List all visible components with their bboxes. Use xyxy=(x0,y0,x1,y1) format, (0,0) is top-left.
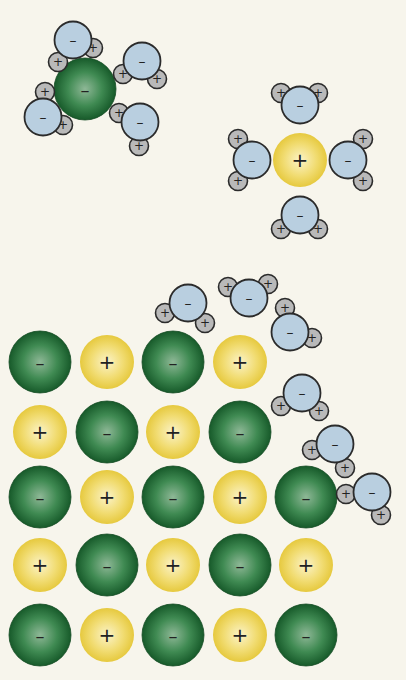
negative-sign-icon: – xyxy=(332,436,339,452)
negative-sign-icon: – xyxy=(40,109,47,125)
negative-sign-icon: – xyxy=(103,555,112,576)
negative-sign-icon: – xyxy=(169,625,178,646)
negative-sign-icon: – xyxy=(302,487,311,508)
negative-sign-icon: – xyxy=(169,487,178,508)
negative-sign-icon: – xyxy=(287,324,294,340)
water-molecule: ++– xyxy=(272,299,322,351)
sodium-ion: + xyxy=(80,335,134,389)
negative-sign-icon: – xyxy=(297,207,304,223)
sodium-ion: + xyxy=(146,538,200,592)
positive-sign-icon: + xyxy=(160,306,170,320)
positive-sign-icon: + xyxy=(165,420,182,444)
negative-sign-icon: – xyxy=(81,79,90,100)
water-molecule: ++– xyxy=(229,130,271,191)
sodium-ion: + xyxy=(213,470,267,524)
chloride-ion: – xyxy=(9,466,71,528)
negative-sign-icon: – xyxy=(249,152,256,168)
positive-sign-icon: + xyxy=(232,623,249,647)
negative-sign-icon: – xyxy=(139,53,146,69)
chloride-ion: – xyxy=(142,604,204,666)
water-molecule: ++– xyxy=(337,474,391,525)
negative-sign-icon: – xyxy=(137,114,144,130)
oxygen-atom: – xyxy=(231,280,268,317)
water-molecule: ++– xyxy=(272,197,328,239)
positive-sign-icon: + xyxy=(200,316,210,330)
negative-sign-icon: – xyxy=(36,352,45,373)
positive-sign-icon: + xyxy=(40,85,50,99)
negative-sign-icon: – xyxy=(36,487,45,508)
sodium-ion: + xyxy=(13,538,67,592)
water-molecule: ++– xyxy=(219,275,278,317)
sodium-ion: + xyxy=(279,538,333,592)
positive-sign-icon: + xyxy=(232,485,249,509)
oxygen-atom: – xyxy=(284,375,321,412)
chloride-ion: – xyxy=(209,534,271,596)
oxygen-atom: – xyxy=(234,142,271,179)
oxygen-atom: – xyxy=(170,285,207,322)
negative-sign-icon: – xyxy=(369,484,376,500)
positive-sign-icon: + xyxy=(99,485,116,509)
positive-sign-icon: + xyxy=(232,350,249,374)
oxygen-atom: – xyxy=(354,474,391,511)
oxygen-atom: – xyxy=(317,426,354,463)
sodium-ion: + xyxy=(80,608,134,662)
positive-sign-icon: + xyxy=(358,132,368,146)
negative-sign-icon: – xyxy=(236,555,245,576)
sodium-ion: + xyxy=(146,405,200,459)
positive-sign-icon: + xyxy=(165,553,182,577)
oxygen-atom: – xyxy=(282,197,319,234)
diagram-canvas: –+–++–+––+–+–+–+–+–+–+––+ ++–++–++–++–++… xyxy=(0,0,406,680)
negative-sign-icon: – xyxy=(299,385,306,401)
positive-sign-icon: + xyxy=(307,443,317,457)
oxygen-atom: – xyxy=(122,104,159,141)
negative-sign-icon: – xyxy=(345,152,352,168)
chloride-ion: – xyxy=(76,401,138,463)
positive-sign-icon: + xyxy=(99,350,116,374)
sodium-ion: + xyxy=(213,608,267,662)
water-molecule: ++– xyxy=(156,285,215,333)
positive-sign-icon: + xyxy=(292,148,309,172)
hydrogen-atom: + xyxy=(337,485,356,504)
nacl-dissolution-diagram: –+–++–+––+–+–+–+–+–+–+––+ ++–++–++–++–++… xyxy=(0,0,406,680)
sodium-ion: + xyxy=(273,133,327,187)
oxygen-atom: – xyxy=(124,43,161,80)
oxygen-atom: – xyxy=(272,314,309,351)
chloride-ion: – xyxy=(9,604,71,666)
water-molecule: ++– xyxy=(330,130,373,191)
water-molecule: ++– xyxy=(272,84,328,124)
negative-sign-icon: – xyxy=(103,422,112,443)
negative-sign-icon: – xyxy=(297,97,304,113)
chloride-ion: – xyxy=(275,604,337,666)
positive-sign-icon: + xyxy=(53,55,63,69)
positive-sign-icon: + xyxy=(99,623,116,647)
chloride-ion: – xyxy=(275,466,337,528)
positive-sign-icon: + xyxy=(340,461,350,475)
chloride-ion: – xyxy=(142,331,204,393)
negative-sign-icon: – xyxy=(169,352,178,373)
negative-sign-icon: – xyxy=(70,32,77,48)
sodium-ion: + xyxy=(80,470,134,524)
negative-sign-icon: – xyxy=(236,422,245,443)
ions: –+–++–+––+–+–+–+–+–+–+––+ xyxy=(9,58,337,666)
chloride-ion: – xyxy=(142,466,204,528)
oxygen-atom: – xyxy=(55,22,92,59)
negative-sign-icon: – xyxy=(185,295,192,311)
chloride-ion: – xyxy=(76,534,138,596)
negative-sign-icon: – xyxy=(302,625,311,646)
sodium-ion: + xyxy=(13,405,67,459)
negative-sign-icon: – xyxy=(246,290,253,306)
chloride-ion: – xyxy=(9,331,71,393)
oxygen-atom: – xyxy=(282,87,319,124)
positive-sign-icon: + xyxy=(298,553,315,577)
positive-sign-icon: + xyxy=(32,420,49,444)
negative-sign-icon: – xyxy=(36,625,45,646)
water-molecule: ++– xyxy=(272,375,329,421)
sodium-ion: + xyxy=(213,335,267,389)
chloride-ion: – xyxy=(209,401,271,463)
water-molecule: ++– xyxy=(110,104,159,156)
positive-sign-icon: + xyxy=(32,553,49,577)
positive-sign-icon: + xyxy=(358,174,368,188)
oxygen-atom: – xyxy=(25,99,62,136)
water-molecule: ++– xyxy=(114,43,167,89)
oxygen-atom: – xyxy=(330,142,367,179)
